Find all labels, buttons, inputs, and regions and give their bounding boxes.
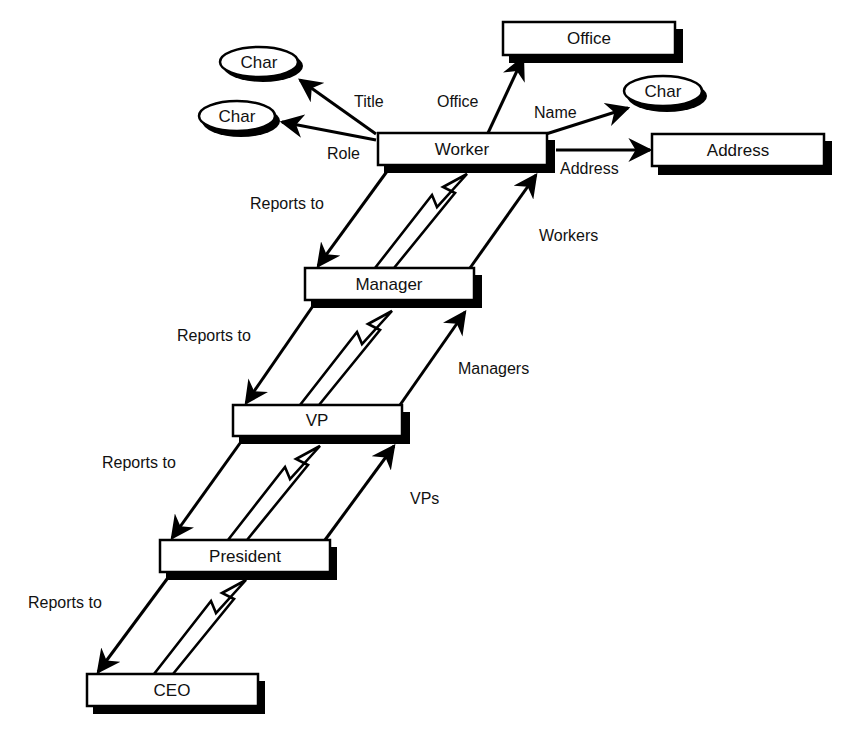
edge-reports-to-ceo [98,575,170,672]
edge-reports-to-vp [246,303,315,403]
label-reports-to-4: Reports to [28,594,102,611]
node-char-role: Char [199,101,280,137]
node-char-name: Char [624,76,707,112]
label-reports-to-3: Reports to [102,454,176,471]
class-diagram: Char Char Char Office Address Worker Man… [0,0,854,735]
inheritance-arrow-president-vp [228,446,320,540]
label-vps: VPs [410,490,439,507]
node-president: President [160,540,337,580]
svg-text:CEO: CEO [154,681,191,700]
edge-office [488,58,523,133]
svg-text:Char: Char [645,82,682,101]
label-title: Title [354,93,384,110]
node-ceo: CEO [87,674,265,714]
svg-text:Worker: Worker [435,140,490,159]
label-reports-to-1: Reports to [250,195,324,212]
svg-text:Address: Address [707,141,769,160]
label-office: Office [437,93,479,110]
svg-text:VP: VP [306,411,329,430]
inheritance-arrow-ceo-president [154,580,246,674]
svg-text:Manager: Manager [355,275,422,294]
inheritance-arrow-manager-worker [375,174,467,268]
node-vp: VP [233,405,410,444]
label-reports-to-2: Reports to [177,327,251,344]
edge-reports-to-president [172,439,243,538]
edge-vps [325,446,394,540]
node-office: Office [503,22,683,63]
label-role: Role [327,145,360,162]
svg-text:Office: Office [567,29,611,48]
svg-text:President: President [209,547,281,566]
node-address: Address [652,134,832,175]
svg-text:Char: Char [241,53,278,72]
edge-managers [400,312,465,405]
edge-reports-to-manager [318,170,388,266]
label-managers: Managers [458,360,529,377]
label-address: Address [560,160,619,177]
label-name: Name [534,104,577,121]
svg-text:Char: Char [219,107,256,126]
label-workers: Workers [539,227,598,244]
inheritance-arrow-vp-manager [300,311,392,405]
node-worker: Worker [378,133,555,173]
node-manager: Manager [305,268,482,308]
edge-workers [470,175,536,268]
node-char-title: Char [220,47,303,82]
